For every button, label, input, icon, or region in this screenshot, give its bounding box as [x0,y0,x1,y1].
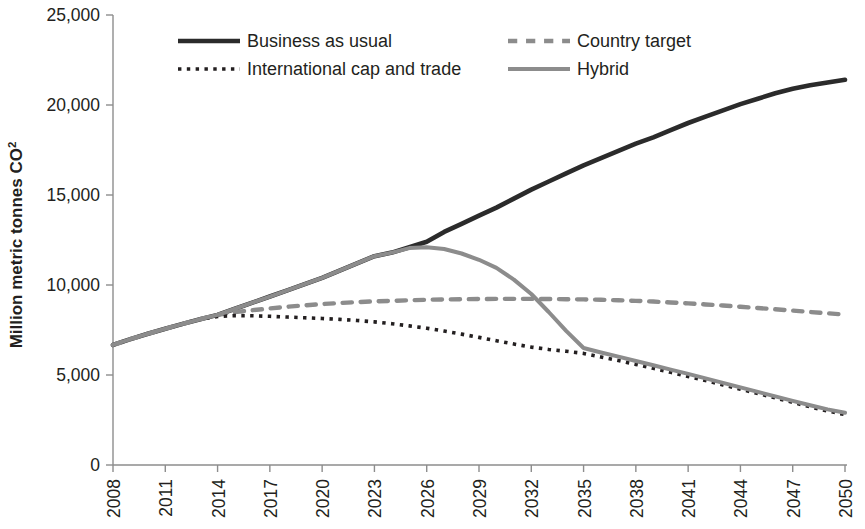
legend-label-business-as-usual: Business as usual [247,31,392,51]
y-tick-label: 10,000 [46,275,100,295]
y-tick-label: 25,000 [46,5,100,25]
svg-text:Million metric tonnes CO2: Million metric tonnes CO2 [6,142,26,349]
chart-container: Million metric tonnes CO2 05,00010,00015… [0,0,865,529]
x-tick-label: 2047 [784,479,804,518]
series-line-international-cap-and-trade [113,316,845,415]
y-axis-title-main: Million metric tonnes CO [7,148,26,348]
line-chart: Million metric tonnes CO2 05,00010,00015… [0,0,865,529]
legend-label-international-cap-and-trade: International cap and trade [247,59,461,79]
y-tick-label: 5,000 [56,365,100,385]
x-tick-label: 2029 [470,479,490,518]
y-tick-label: 15,000 [46,185,100,205]
x-tick-label: 2017 [261,479,281,518]
y-tick-label: 0 [90,455,100,475]
x-tick-label: 2038 [627,479,647,518]
x-tick-label: 2044 [731,479,751,518]
series-line-business-as-usual [113,80,845,345]
legend-label-country-target: Country target [577,31,691,51]
x-tick-label: 2050 [836,479,856,518]
data-series-layer [113,80,845,415]
series-line-hybrid [113,247,845,413]
x-tick-label: 2011 [156,479,176,517]
x-tick-label: 2032 [522,479,542,518]
x-tick-label: 2014 [209,479,229,518]
y-axis-title-subscript: 2 [6,142,18,148]
y-tick-label: 20,000 [46,95,100,115]
x-tick-label: 2008 [104,479,124,518]
x-tick-label: 2026 [418,479,438,518]
legend-label-hybrid: Hybrid [577,59,629,79]
x-tick-label: 2035 [575,479,595,518]
x-tick-label: 2023 [365,479,385,518]
x-tick-label: 2020 [313,479,333,518]
y-axis-ticks: 05,00010,00015,00020,00025,000 [46,5,113,475]
chart-legend: Business as usualCountry targetInternati… [178,31,691,79]
y-axis-title: Million metric tonnes CO2 [6,142,26,349]
x-axis-ticks: 2008201120142017202020232026202920322035… [104,465,856,518]
x-tick-label: 2041 [679,479,699,518]
